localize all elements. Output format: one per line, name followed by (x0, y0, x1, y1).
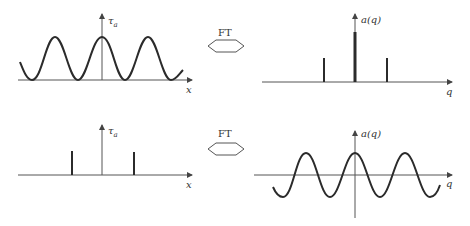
double-arrow-icon (208, 40, 244, 52)
panel-bottom-right: a(q) q (254, 128, 452, 218)
y-label: τa (108, 15, 118, 29)
x-label: x (186, 84, 192, 95)
q-label: q (446, 86, 452, 97)
ft-label: FT (218, 128, 232, 139)
ft-arrow-bottom: FT (208, 128, 244, 155)
y-label: a(q) (361, 14, 381, 25)
y-label: a(q) (361, 128, 381, 139)
x-label: x (186, 179, 192, 190)
panel-top-right: a(q) q (262, 14, 452, 97)
q-label: q (446, 178, 452, 189)
ft-arrow-top: FT (208, 27, 244, 52)
y-label: τa (108, 125, 118, 139)
ft-label: FT (218, 27, 232, 38)
double-arrow-icon (208, 143, 244, 155)
panel-top-left: τa x (18, 14, 192, 95)
fourier-diagram: τa x FT a(q) q τa x FT a(q) q (0, 0, 470, 226)
panel-bottom-left: τa x (18, 125, 192, 190)
